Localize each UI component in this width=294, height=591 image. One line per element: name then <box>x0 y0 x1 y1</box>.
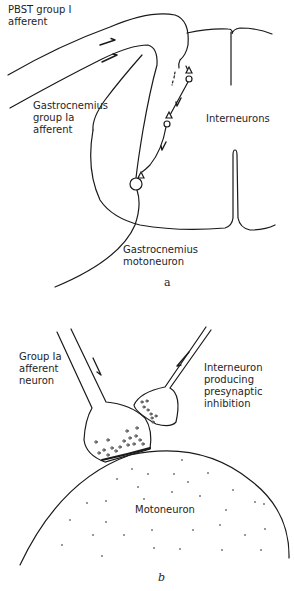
label-gastrocnemius-afferent: Gastrocnemius group Ia afferent <box>33 100 108 136</box>
interneuron-axon-1 <box>170 82 188 115</box>
interneuron-1 <box>186 76 192 82</box>
label-pbst-afferent: PBST group I afferent <box>8 4 72 28</box>
spinal-cord-dorsal-outline <box>187 28 272 34</box>
caption-a: a <box>164 276 171 289</box>
label-gastrocnemius-motoneuron: Gastrocnemius motoneuron <box>123 244 198 268</box>
motoneuron-axon <box>55 190 139 287</box>
label-group-ia-afferent-neuron: Group Ia afferent neuron <box>19 351 62 387</box>
spinal-cord-ventral-outline <box>91 130 275 230</box>
label-interneurons: Interneurons <box>206 113 270 125</box>
diagram-canvas <box>0 0 294 591</box>
arrow-pbst <box>100 39 115 46</box>
motoneuron-soma <box>130 178 142 190</box>
label-interneuron-presynaptic: Interneuron producing presynaptic inhibi… <box>204 362 263 410</box>
synapse-3 <box>138 172 144 178</box>
pbst-dashed-branch <box>172 72 175 85</box>
caption-b: b <box>158 571 165 584</box>
arrow-ia <box>93 358 101 375</box>
interneuron-2 <box>164 121 170 127</box>
ia-afferent-stalk <box>57 329 151 462</box>
label-motoneuron: Motoneuron <box>135 504 195 516</box>
interneuron-stalk <box>134 327 211 426</box>
